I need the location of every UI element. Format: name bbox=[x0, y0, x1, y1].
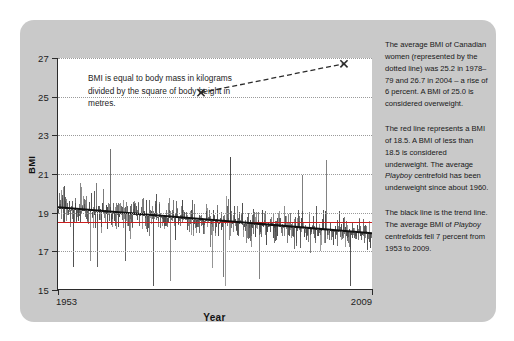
y-axis-tick bbox=[52, 135, 58, 136]
y-axis-tick bbox=[52, 251, 58, 252]
y-axis-tick bbox=[52, 213, 58, 214]
y-axis-tick-label: 17 bbox=[38, 246, 49, 257]
publication-name: Playboy bbox=[454, 220, 481, 229]
gridline bbox=[58, 213, 372, 214]
x-marker bbox=[340, 60, 347, 67]
y-axis-tick bbox=[52, 58, 58, 59]
y-axis-label: BMI bbox=[26, 156, 37, 174]
y-axis-tick-label: 19 bbox=[38, 207, 49, 218]
y-axis-tick-label: 27 bbox=[38, 53, 49, 64]
gridline bbox=[58, 251, 372, 252]
x-axis-tick bbox=[58, 289, 59, 295]
plot-inner: BMI is equal to body mass in kilograms d… bbox=[58, 58, 372, 289]
y-axis-tick bbox=[52, 174, 58, 175]
trend-line bbox=[58, 207, 372, 233]
chart-card: BMI Year BMI is equal to body mass in ki… bbox=[20, 20, 496, 322]
trend-line-note: The black line is the trend line. The av… bbox=[385, 207, 489, 254]
note-text: The red line represents a BMI of 18.5. A… bbox=[385, 124, 485, 169]
gridline bbox=[58, 97, 372, 98]
y-axis-tick-label: 15 bbox=[38, 285, 49, 296]
x-axis-label: Year bbox=[57, 312, 372, 323]
y-axis-tick-label: 25 bbox=[38, 91, 49, 102]
gridline bbox=[58, 135, 372, 136]
x-axis-tick-label: 1953 bbox=[56, 296, 77, 307]
y-axis-tick-label: 23 bbox=[38, 130, 49, 141]
note-text: The average BMI of Canadian women (repre… bbox=[385, 40, 488, 108]
gridline bbox=[58, 58, 372, 59]
publication-name: Playboy bbox=[385, 171, 412, 180]
note-text: centrefolds fell 7 percent from 1953 to … bbox=[385, 232, 485, 253]
bmi-definition-annotation: BMI is equal to body mass in kilograms d… bbox=[88, 72, 258, 110]
canadian-women-note: The average BMI of Canadian women (repre… bbox=[385, 39, 489, 110]
x-axis-tick bbox=[372, 289, 373, 295]
plot-area: BMI is equal to body mass in kilograms d… bbox=[57, 58, 372, 290]
red-line-note: The red line represents a BMI of 18.5. A… bbox=[385, 123, 489, 194]
side-notes-panel: The average BMI of Canadian women (repre… bbox=[385, 39, 489, 255]
gridline bbox=[58, 174, 372, 175]
x-axis-tick-label: 2009 bbox=[351, 296, 372, 307]
y-axis-tick bbox=[52, 97, 58, 98]
y-axis-tick-label: 21 bbox=[38, 169, 49, 180]
